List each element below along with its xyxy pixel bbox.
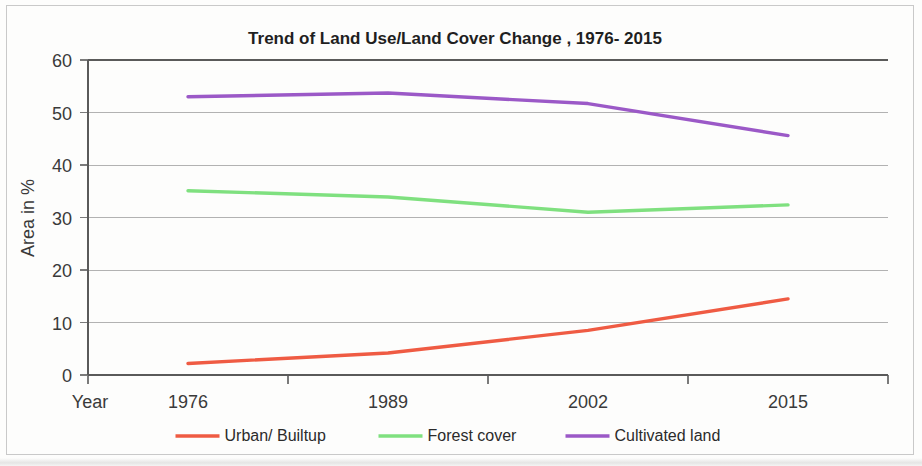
x-tick-label: 2002 (568, 392, 608, 412)
chart-legend: Urban/ BuiltupForest coverCultivated lan… (176, 427, 721, 444)
chart-figure: Trend of Land Use/Land Cover Change , 19… (0, 0, 922, 466)
legend-label-forest-cover: Forest cover (428, 427, 518, 444)
y-tick-label: 40 (52, 156, 72, 176)
y-tick-label: 60 (52, 51, 72, 71)
x-axis-tick-marks (88, 375, 888, 384)
series-line-urban-builtup (188, 299, 788, 364)
x-axis-tick-labels: 1976198920022015 (168, 392, 808, 412)
y-tick-label: 50 (52, 104, 72, 124)
y-tick-label: 10 (52, 314, 72, 334)
y-tick-label: 20 (52, 261, 72, 281)
gridlines (88, 113, 888, 323)
x-tick-label: 1989 (368, 392, 408, 412)
y-axis-title: Area in % (18, 179, 38, 257)
line-chart: Trend of Land Use/Land Cover Change , 19… (0, 0, 922, 466)
chart-title: Trend of Land Use/Land Cover Change , 19… (248, 29, 662, 48)
x-tick-label: 2015 (768, 392, 808, 412)
x-axis-title: Year (72, 392, 108, 412)
legend-label-urban-builtup: Urban/ Builtup (225, 427, 326, 444)
y-axis-tick-marks (80, 60, 88, 375)
y-tick-label: 30 (52, 209, 72, 229)
x-tick-label: 1976 (168, 392, 208, 412)
y-axis-tick-labels: 0102030405060 (52, 51, 72, 386)
series-line-cultivated-land (188, 93, 788, 136)
series-line-forest-cover (188, 191, 788, 213)
y-tick-label: 0 (62, 366, 72, 386)
legend-label-cultivated-land: Cultivated land (615, 427, 721, 444)
